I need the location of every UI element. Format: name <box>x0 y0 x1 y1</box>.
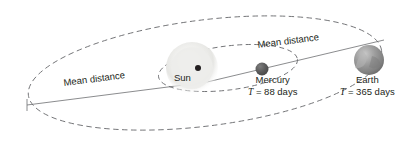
orbit-diagram-canvas <box>0 0 406 142</box>
earth-period-symbol: T <box>340 87 345 97</box>
mercury-label-group: Mercury T = 88 days <box>248 75 297 97</box>
orbit-diagram: Mean distance Mean distance Sun Mercury … <box>0 0 406 142</box>
mercury-period: T = 88 days <box>248 87 297 98</box>
earth-period: T = 365 days <box>340 87 395 98</box>
orbital-focus-dot <box>195 65 201 71</box>
sun-label: Sun <box>174 73 191 84</box>
mercury-period-value: = 88 days <box>256 86 297 97</box>
mercury-label: Mercury <box>256 75 290 86</box>
mercury-period-symbol: T <box>248 87 253 97</box>
earth-label-group: Earth T = 365 days <box>340 75 395 97</box>
earth-period-value: = 365 days <box>348 86 395 97</box>
earth-label: Earth <box>356 75 379 86</box>
